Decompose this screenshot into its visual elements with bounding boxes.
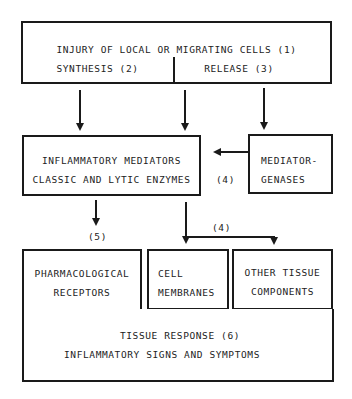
- connector-arrows: [0, 0, 352, 399]
